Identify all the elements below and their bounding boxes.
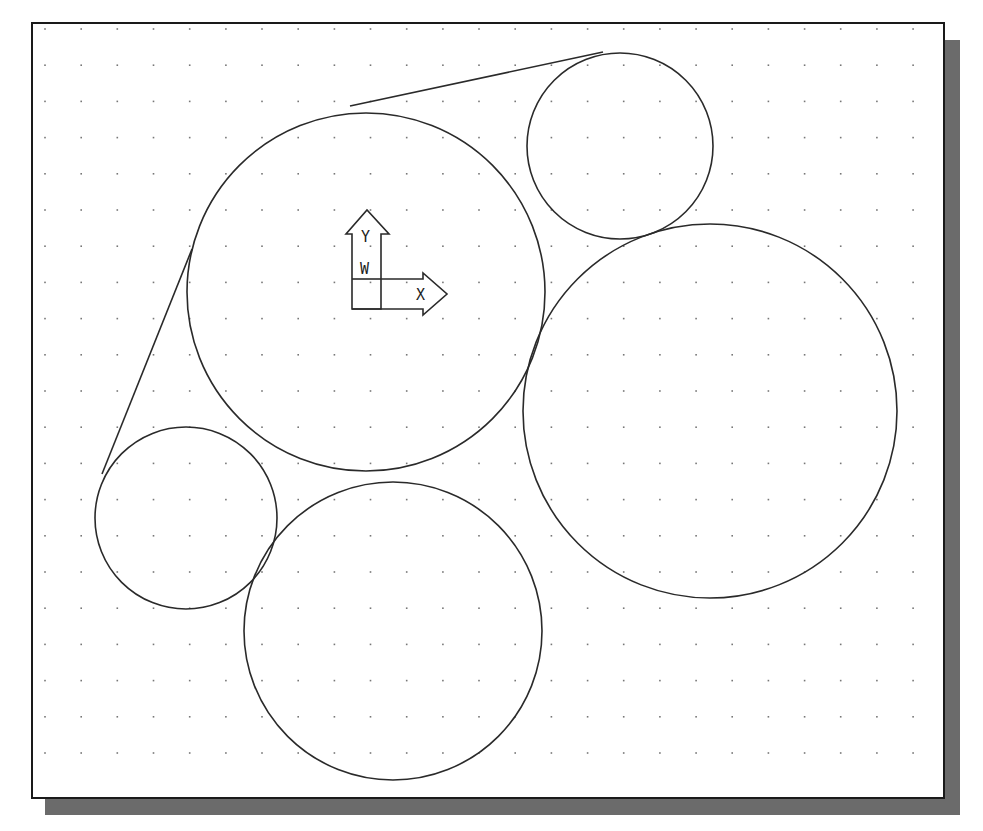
- shadow-right: [944, 40, 960, 815]
- cad-drawing-canvas[interactable]: Y W X: [0, 0, 983, 831]
- viewport-frame: [32, 23, 944, 798]
- ucs-w-label: W: [360, 260, 370, 278]
- ucs-y-label: Y: [361, 228, 370, 246]
- shadow-bottom: [45, 798, 960, 815]
- ucs-x-label: X: [416, 286, 425, 304]
